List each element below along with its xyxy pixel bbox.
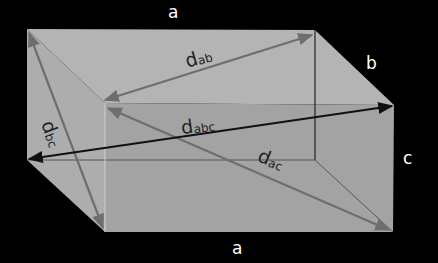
edge-label-top-a: a (168, 4, 178, 21)
edge-label-b: b (366, 55, 377, 72)
box-diagram: a b c a dab dbc dabc dac (0, 0, 438, 263)
label-d-abc: dabc (180, 114, 216, 137)
box-drawing (0, 0, 438, 263)
edge-label-c: c (403, 150, 412, 167)
edge-label-bottom-a: a (232, 240, 242, 257)
